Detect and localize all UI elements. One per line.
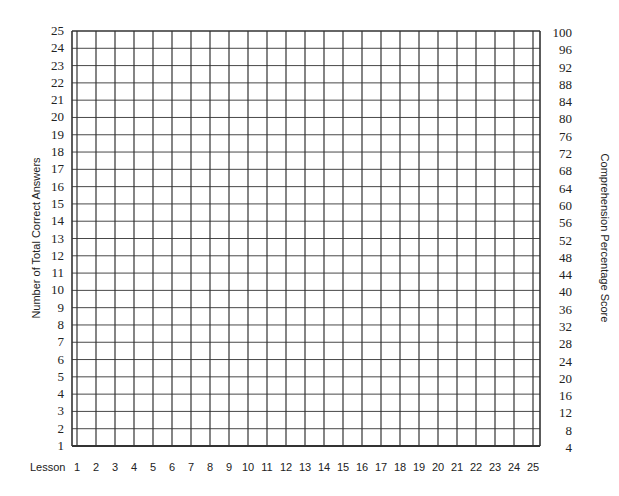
right-axis-tick: 12	[542, 406, 572, 419]
right-axis-tick: 56	[542, 216, 572, 229]
left-axis-tick: 18	[34, 145, 64, 158]
x-axis-tick: 10	[238, 461, 258, 473]
chart-grid	[0, 0, 619, 496]
x-axis-tick: 5	[143, 461, 163, 473]
right-axis-tick: 48	[542, 251, 572, 264]
x-axis-tick: 9	[219, 461, 239, 473]
right-axis-tick: 92	[542, 61, 572, 74]
x-axis-tick: 21	[447, 461, 467, 473]
right-axis-tick: 28	[542, 337, 572, 350]
x-axis-tick: 25	[523, 461, 543, 473]
left-axis-tick: 3	[34, 404, 64, 417]
left-axis-tick: 4	[34, 387, 64, 400]
x-axis-tick: 19	[409, 461, 429, 473]
x-axis-tick: 20	[428, 461, 448, 473]
right-axis-tick: 84	[542, 95, 572, 108]
left-axis-tick: 1	[34, 439, 64, 452]
right-axis-tick: 100	[542, 26, 572, 39]
x-axis-label: Lesson	[30, 461, 65, 473]
x-axis-tick: 3	[105, 461, 125, 473]
x-axis-tick: 23	[485, 461, 505, 473]
right-axis-tick: 64	[542, 182, 572, 195]
x-axis-tick: 1	[67, 461, 87, 473]
x-axis-tick: 8	[200, 461, 220, 473]
right-axis-title: Comprehension Percentage Score	[599, 154, 611, 323]
left-axis-tick: 23	[34, 59, 64, 72]
x-axis-tick: 24	[504, 461, 524, 473]
x-axis-tick: 6	[162, 461, 182, 473]
right-axis-tick: 88	[542, 78, 572, 91]
right-axis-tick: 44	[542, 268, 572, 281]
right-axis-tick: 32	[542, 320, 572, 333]
left-axis-tick: 8	[34, 318, 64, 331]
x-axis-tick: 13	[295, 461, 315, 473]
x-axis-tick: 11	[257, 461, 277, 473]
x-axis-tick: 2	[86, 461, 106, 473]
x-axis-tick: 15	[333, 461, 353, 473]
left-axis-tick: 2	[34, 422, 64, 435]
left-axis-tick: 20	[34, 110, 64, 123]
x-axis-tick: 17	[371, 461, 391, 473]
x-axis-tick: 22	[466, 461, 486, 473]
right-axis-tick: 16	[542, 389, 572, 402]
left-axis-title: Number of Total Correct Answers	[30, 157, 42, 318]
left-axis-tick: 7	[34, 335, 64, 348]
x-axis-tick: 14	[314, 461, 334, 473]
x-axis-tick: 7	[181, 461, 201, 473]
right-axis-tick: 60	[542, 199, 572, 212]
x-axis-tick: 18	[390, 461, 410, 473]
left-axis-tick: 22	[34, 76, 64, 89]
right-axis-tick: 24	[542, 355, 572, 368]
x-axis-tick: 12	[276, 461, 296, 473]
right-axis-tick: 96	[542, 43, 572, 56]
right-axis-tick: 52	[542, 234, 572, 247]
left-axis-tick: 24	[34, 41, 64, 54]
right-axis-tick: 36	[542, 303, 572, 316]
left-axis-tick: 19	[34, 128, 64, 141]
right-axis-tick: 72	[542, 147, 572, 160]
left-axis-tick: 6	[34, 353, 64, 366]
x-axis-tick: 4	[124, 461, 144, 473]
right-axis-tick: 40	[542, 285, 572, 298]
left-axis-tick: 25	[34, 24, 64, 37]
right-axis-tick: 4	[542, 441, 572, 454]
right-axis-tick: 68	[542, 164, 572, 177]
right-axis-tick: 20	[542, 372, 572, 385]
left-axis-tick: 5	[34, 370, 64, 383]
left-axis-tick: 21	[34, 93, 64, 106]
right-axis-tick: 76	[542, 130, 572, 143]
right-axis-tick: 80	[542, 112, 572, 125]
right-axis-tick: 8	[542, 424, 572, 437]
x-axis-tick: 16	[352, 461, 372, 473]
